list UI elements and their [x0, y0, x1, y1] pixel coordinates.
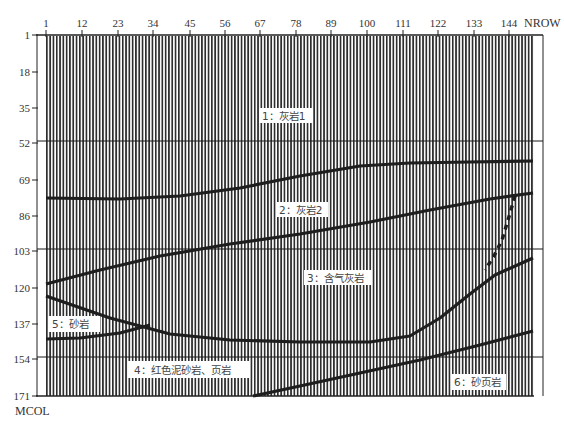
row-tick-label: 1: [25, 29, 31, 41]
svg-text:4：红色泥砂岩、页岩: 4：红色泥砂岩、页岩: [134, 364, 231, 376]
col-tick-label: 122: [430, 17, 447, 29]
col-tick-label: 100: [359, 17, 376, 29]
row-tick-label: 137: [14, 318, 31, 330]
col-tick-label: 34: [148, 17, 160, 29]
row-axis-name: MCOL: [15, 404, 50, 418]
layer-label-5: 5：砂岩: [48, 316, 100, 332]
svg-text:2：灰岩2: 2：灰岩2: [279, 204, 322, 216]
row-tick-label: 120: [14, 282, 31, 294]
row-tick-label: 52: [19, 137, 30, 149]
layer-label-2: 2：灰岩2: [276, 202, 328, 217]
col-tick-label: 23: [113, 17, 125, 29]
col-tick-label: 89: [326, 17, 338, 29]
layer-label-3: 3：含气灰岩: [304, 270, 372, 285]
col-tick-label: 133: [466, 17, 483, 29]
layer-label-1: 1：灰岩1: [259, 108, 313, 123]
col-tick-label: 1: [43, 17, 49, 29]
svg-text:3：含气灰岩: 3：含气灰岩: [307, 272, 364, 284]
row-tick-label: 103: [14, 245, 31, 257]
seismic-model-figure: 1 12 23 34 45 56 67 78 89 100 111 122 13…: [0, 0, 564, 430]
layer-label-4: 4：红色泥砂岩、页岩: [128, 361, 250, 378]
col-tick-label: 45: [185, 17, 197, 29]
row-tick-label: 35: [19, 102, 31, 114]
column-axis-name: NROW: [524, 16, 561, 30]
row-tick-label: 18: [19, 66, 31, 78]
col-tick-label: 56: [220, 17, 232, 29]
row-tick-label: 86: [19, 210, 31, 222]
layer-label-6: 6：砂页岩: [451, 374, 506, 390]
svg-text:1：灰岩1: 1：灰岩1: [262, 110, 305, 122]
col-tick-label: 12: [77, 17, 88, 29]
column-axis: [46, 30, 509, 37]
col-tick-label: 67: [255, 17, 267, 29]
svg-text:5：砂岩: 5：砂岩: [52, 318, 89, 330]
row-tick-label: 171: [14, 390, 31, 402]
col-tick-label: 111: [395, 17, 411, 29]
svg-text:6：砂页岩: 6：砂页岩: [454, 376, 501, 388]
col-tick-label: 144: [501, 17, 518, 29]
col-tick-label: 78: [291, 17, 303, 29]
row-tick-label: 69: [19, 174, 31, 186]
row-tick-label: 154: [14, 353, 31, 365]
